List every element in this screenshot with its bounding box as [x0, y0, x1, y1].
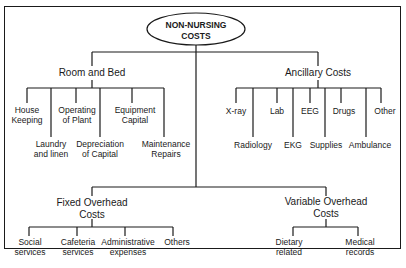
ancillary-child: Ambulance	[349, 140, 392, 150]
ancillary-costs-label: Ancillary Costs	[285, 67, 351, 79]
room-and-bed-label: Room and Bed	[59, 67, 126, 79]
ancillary-child: Drugs	[333, 106, 356, 116]
ancillary-child: X-ray	[226, 106, 246, 116]
room-bed-child: Equipment Capital	[115, 105, 156, 125]
child-line1: Maintenance	[142, 139, 191, 149]
child-line1: Operating	[58, 105, 95, 115]
child-line1: Medical	[345, 237, 374, 247]
child-line2: Keeping	[11, 115, 42, 125]
child-line1: Depreciation	[76, 139, 124, 149]
variable-overhead-label: Variable Overhead Costs	[285, 196, 368, 219]
root-label-line1: NON-NURSING	[166, 20, 227, 31]
child-line2: services	[14, 247, 45, 257]
child-line1: Dietary	[276, 237, 303, 247]
child-line2: Repairs	[142, 149, 191, 159]
fixed-overhead-label: Fixed Overhead Costs	[56, 197, 127, 220]
label-line1: Fixed Overhead	[56, 197, 127, 209]
child-line2: related	[276, 247, 303, 257]
child-line2: expenses	[101, 247, 154, 257]
root-label-line2: COSTS	[166, 31, 227, 42]
ancillary-child: Lab	[270, 106, 284, 116]
label-line2: Costs	[56, 209, 127, 221]
variable-overhead-child: Medical records	[345, 237, 374, 257]
child-line1: House	[11, 105, 42, 115]
non-nursing-costs-diagram: NON-NURSING COSTS Room and Bed Ancillary…	[0, 0, 406, 268]
ancillary-child: EKG	[284, 140, 302, 150]
child-line1: Equipment	[115, 105, 156, 115]
room-bed-child: Laundry and linen	[34, 139, 69, 159]
child-line1: Cafeteria	[61, 237, 96, 247]
fixed-overhead-child: Administrative expenses	[101, 237, 154, 257]
variable-overhead-child: Dietary related	[276, 237, 303, 257]
child-line2: records	[345, 247, 374, 257]
room-bed-child: Depreciation of Capital	[76, 139, 124, 159]
child-line1: Laundry	[34, 139, 69, 149]
ancillary-child: EEG	[301, 106, 319, 116]
fixed-overhead-child: Social services	[14, 237, 45, 257]
ancillary-child: Radiology	[234, 140, 272, 150]
room-bed-child: House Keeping	[11, 105, 42, 125]
child-line2: Capital	[115, 115, 156, 125]
fixed-overhead-child: Cafeteria services	[61, 237, 96, 257]
root-node-label: NON-NURSING COSTS	[166, 20, 227, 41]
child-line1: Social	[14, 237, 45, 247]
child-line2: of Plant	[58, 115, 95, 125]
child-line2: and linen	[34, 149, 69, 159]
label-line1: Variable Overhead	[285, 196, 368, 208]
label-line2: Costs	[285, 208, 368, 220]
ancillary-child: Other	[374, 106, 395, 116]
room-bed-child: Operating of Plant	[58, 105, 95, 125]
fixed-overhead-child: Others	[164, 237, 190, 247]
ancillary-child: Supplies	[310, 140, 343, 150]
room-bed-child: Maintenance Repairs	[142, 139, 191, 159]
child-line2: services	[61, 247, 96, 257]
child-line2: of Capital	[76, 149, 124, 159]
child-line1: Administrative	[101, 237, 154, 247]
